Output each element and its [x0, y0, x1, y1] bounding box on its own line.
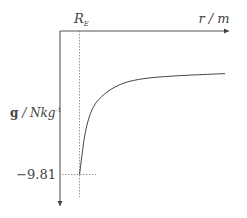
y-axis-label: g / Nkg-1	[10, 106, 61, 120]
gravity-field-diagram: r / m RE g / Nkg-1 −9.81	[0, 0, 247, 218]
surface-g-value-label: −9.81	[16, 167, 56, 182]
g-curve	[80, 74, 226, 175]
earth-radius-label: RE	[73, 11, 89, 28]
x-axis-label: r / m	[198, 11, 229, 26]
